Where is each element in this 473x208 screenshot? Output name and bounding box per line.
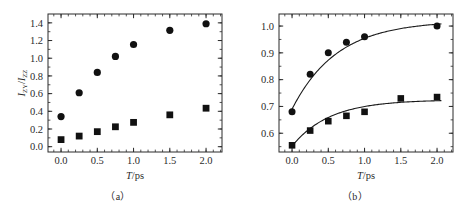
panel-a-caption: （a） — [0, 188, 236, 203]
data-point-circle — [112, 53, 119, 60]
data-point-circle — [434, 23, 441, 30]
data-point-circle — [289, 108, 296, 115]
data-point-circle — [166, 27, 173, 34]
data-point-square — [94, 128, 101, 135]
data-point-circle — [202, 20, 209, 27]
x-tick-label: 0.5 — [91, 155, 104, 166]
y-tick-label: 1.0 — [30, 53, 43, 64]
data-point-square — [130, 119, 137, 126]
y-tick-label: 1.0 — [261, 21, 274, 32]
y-tick-label: 0.8 — [30, 71, 43, 82]
x-axis-title: T/ps — [126, 170, 144, 181]
data-point-circle — [94, 69, 101, 76]
y-tick-label: 1.2 — [30, 35, 43, 46]
y-tick-label: 1.4 — [30, 18, 44, 29]
data-point-square — [307, 127, 314, 134]
data-point-square — [325, 118, 332, 125]
data-point-square — [398, 95, 405, 102]
x-tick-label: 0.0 — [54, 155, 67, 166]
x-tick-label: 1.0 — [127, 155, 140, 166]
y-axis-title: IZY/IZZ — [16, 70, 28, 98]
panel-b-plot: 0.00.51.01.52.00.60.70.80.91.0T/ps — [237, 0, 473, 208]
data-point-square — [203, 105, 210, 112]
data-point-square — [343, 113, 350, 120]
x-tick-label: 1.0 — [358, 155, 371, 166]
data-point-square — [112, 123, 119, 130]
figure-container: 0.00.51.01.52.00.00.20.40.60.81.01.21.4T… — [0, 0, 473, 208]
x-tick-label: 1.5 — [394, 155, 407, 166]
data-point-circle — [361, 33, 368, 40]
data-point-circle — [307, 71, 314, 78]
plot-frame — [48, 14, 222, 152]
data-point-square — [76, 133, 83, 140]
y-tick-label: 0.9 — [261, 48, 274, 59]
data-point-square — [361, 109, 368, 116]
y-tick-label: 0.4 — [30, 106, 44, 117]
x-tick-label: 0.0 — [285, 155, 298, 166]
panel-a: 0.00.51.01.52.00.00.20.40.60.81.01.21.4T… — [0, 0, 236, 208]
x-axis-title: T/ps — [357, 170, 375, 181]
x-tick-label: 1.5 — [163, 155, 176, 166]
y-tick-label: 0.6 — [30, 88, 43, 99]
y-tick-label: 0.7 — [261, 101, 274, 112]
y-tick-label: 0.0 — [30, 141, 43, 152]
data-point-square — [166, 111, 173, 118]
data-point-circle — [343, 39, 350, 46]
panel-a-plot: 0.00.51.01.52.00.00.20.40.60.81.01.21.4T… — [0, 0, 236, 208]
data-point-square — [58, 136, 65, 143]
panel-b-caption: （b） — [237, 188, 473, 203]
squares-fit — [291, 101, 442, 148]
data-point-circle — [130, 41, 137, 48]
x-tick-label: 2.0 — [430, 155, 443, 166]
data-point-square — [289, 142, 296, 149]
data-point-circle — [76, 89, 83, 96]
data-point-square — [434, 94, 441, 101]
panel-b: 0.00.51.01.52.00.60.70.80.91.0T/ps （b） — [237, 0, 473, 208]
svg-text:IZY/IZZ: IZY/IZZ — [16, 70, 28, 98]
y-tick-label: 0.6 — [261, 128, 274, 139]
data-point-circle — [325, 49, 332, 56]
x-tick-label: 2.0 — [199, 155, 212, 166]
data-point-circle — [57, 113, 64, 120]
y-tick-label: 0.2 — [30, 124, 43, 135]
y-tick-label: 0.8 — [261, 74, 274, 85]
x-tick-label: 0.5 — [322, 155, 335, 166]
